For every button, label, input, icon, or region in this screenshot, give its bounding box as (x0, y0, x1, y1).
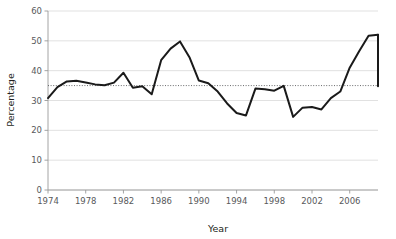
y-tick-label-30: 30 (31, 96, 42, 106)
tickmarks-group (45, 11, 350, 194)
data-series-group (48, 35, 378, 117)
y-tick-label-60: 60 (31, 6, 42, 16)
y-tick-label-10: 10 (31, 155, 42, 165)
y-tick-labels-group: 0102030405060 (31, 6, 42, 195)
y-tick-label-40: 40 (31, 66, 42, 76)
x-tick-label-1998: 1998 (263, 196, 285, 206)
chart-canvas: 0102030405060 19741978198219861990199419… (0, 0, 396, 239)
y-tick-label-50: 50 (31, 36, 42, 46)
x-tick-label-1978: 1978 (75, 196, 97, 206)
y-tick-label-0: 0 (37, 185, 42, 195)
x-tick-label-2006: 2006 (339, 196, 361, 206)
x-tick-label-2002: 2002 (301, 196, 323, 206)
x-axis-label: Year (207, 223, 228, 234)
x-tick-labels-group: 197419781982198619901994199820022006 (37, 196, 360, 206)
y-axis-label: Percentage (5, 73, 16, 127)
x-tick-label-1986: 1986 (150, 196, 172, 206)
x-tick-label-1982: 1982 (113, 196, 135, 206)
line-chart: 0102030405060 19741978198219861990199419… (0, 0, 396, 239)
y-tick-label-20: 20 (31, 125, 42, 135)
x-tick-label-1994: 1994 (226, 196, 248, 206)
data-line-percentage (48, 35, 378, 117)
x-tick-label-1974: 1974 (37, 196, 59, 206)
x-tick-label-1990: 1990 (188, 196, 210, 206)
